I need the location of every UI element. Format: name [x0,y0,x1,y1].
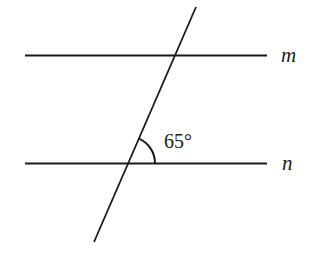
angle-label: 65° [164,130,192,152]
transversal-line [94,7,196,242]
line-label-n: n [282,151,293,175]
angle-arc [139,139,155,164]
line-label-m: m [281,43,296,67]
diagram-canvas: 65° m n [0,0,315,256]
